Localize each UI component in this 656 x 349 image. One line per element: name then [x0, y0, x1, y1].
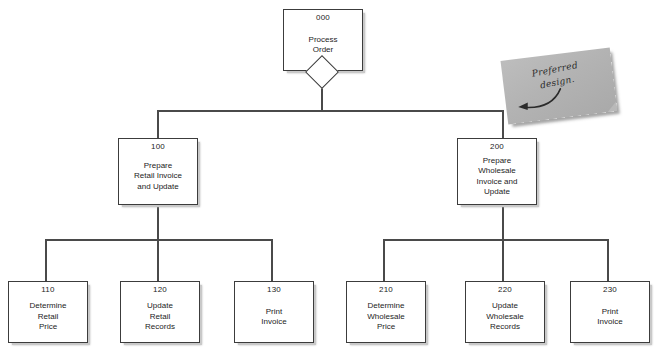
process-box-120-line-1: Update	[147, 301, 173, 312]
connector-node-200-stem	[502, 205, 504, 241]
process-box-100[interactable]: 100 Prepare Retail Invoice and Update	[118, 138, 198, 205]
process-box-130-label: Print Invoice	[235, 295, 313, 342]
process-box-130-line-2: Invoice	[261, 317, 286, 328]
structure-chart-canvas: 000 Process Order 100 Prepare Retail Inv…	[0, 0, 656, 349]
process-box-110[interactable]: 110 Determine Retail Price	[8, 281, 88, 343]
sticky-note-fold-corner	[606, 101, 617, 112]
connector-left-subbus	[45, 239, 273, 241]
process-box-110-number: 110	[41, 285, 54, 295]
process-box-120[interactable]: 120 Update Retail Records	[120, 281, 200, 343]
process-box-220-line-3: Records	[490, 322, 520, 333]
process-box-100-line-3: and Update	[137, 182, 178, 193]
process-box-100-line-2: Retail Invoice	[134, 171, 182, 182]
process-box-200-line-4: Update	[484, 187, 510, 198]
process-box-110-line-2: Retail	[38, 312, 58, 323]
process-box-220-label: Update Wholesale Records	[466, 295, 544, 342]
connector-to-node-120	[157, 239, 159, 281]
process-box-230-number: 230	[603, 285, 617, 295]
process-box-210-number: 210	[379, 285, 393, 295]
connector-to-node-200	[502, 110, 504, 138]
process-box-120-line-2: Retail	[150, 312, 170, 323]
process-box-000-line-2: Order	[313, 45, 333, 56]
connector-to-node-230	[607, 239, 609, 281]
process-box-130-number: 130	[267, 285, 281, 295]
process-box-230-line-2: Invoice	[597, 317, 622, 328]
connector-to-node-210	[383, 239, 385, 281]
process-box-000-number: 000	[316, 13, 330, 23]
process-box-200-number: 200	[490, 142, 504, 152]
process-box-120-number: 120	[153, 285, 167, 295]
process-box-130[interactable]: 130 Print Invoice	[234, 281, 314, 343]
process-box-200-line-3: Invoice and	[477, 177, 518, 188]
connector-level1-bus	[157, 110, 504, 112]
process-box-000-line-1: Process	[309, 35, 338, 46]
process-box-210-line-3: Price	[377, 322, 395, 333]
process-box-120-label: Update Retail Records	[121, 295, 199, 342]
process-box-120-line-3: Records	[145, 322, 175, 333]
process-box-210[interactable]: 210 Determine Wholesale Price	[346, 281, 426, 343]
process-box-210-line-1: Determine	[368, 301, 405, 312]
connector-to-node-100	[157, 110, 159, 138]
process-box-130-line-1: Print	[266, 307, 282, 318]
process-box-100-label: Prepare Retail Invoice and Update	[119, 152, 197, 204]
sticky-note-annotation[interactable]: Preferred design.	[501, 48, 618, 125]
process-box-230-line-1: Print	[602, 307, 618, 318]
process-box-100-line-1: Prepare	[144, 161, 172, 172]
connector-to-node-220	[502, 239, 504, 281]
process-box-110-line-3: Price	[39, 322, 57, 333]
process-box-220-line-2: Wholesale	[486, 312, 523, 323]
process-box-230-label: Print Invoice	[571, 295, 649, 342]
process-box-200-label: Prepare Wholesale Invoice and Update	[458, 152, 536, 204]
process-box-110-label: Determine Retail Price	[9, 295, 87, 342]
connector-node-100-stem	[157, 205, 159, 241]
curved-left-arrow-icon	[512, 86, 567, 118]
process-box-110-line-1: Determine	[30, 301, 67, 312]
process-box-200-line-2: Wholesale	[478, 166, 515, 177]
process-box-220-number: 220	[498, 285, 512, 295]
process-box-200[interactable]: 200 Prepare Wholesale Invoice and Update	[457, 138, 537, 205]
process-box-210-line-2: Wholesale	[367, 312, 404, 323]
process-box-200-line-1: Prepare	[483, 156, 511, 167]
process-box-230[interactable]: 230 Print Invoice	[570, 281, 650, 343]
connector-right-subbus	[383, 239, 609, 241]
process-box-220-line-1: Update	[492, 301, 518, 312]
connector-to-node-110	[45, 239, 47, 281]
process-box-220[interactable]: 220 Update Wholesale Records	[465, 281, 545, 343]
connector-to-node-130	[271, 239, 273, 281]
process-box-210-label: Determine Wholesale Price	[347, 295, 425, 342]
process-box-100-number: 100	[151, 142, 165, 152]
